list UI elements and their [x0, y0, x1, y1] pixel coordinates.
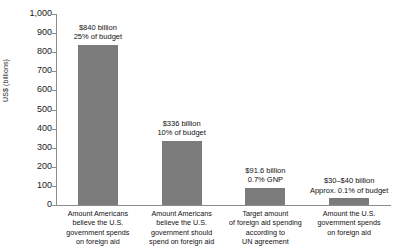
y-axis-tick-mark [52, 129, 56, 130]
y-axis-tick-label: 0 [10, 200, 52, 209]
y-axis-title: US$ (billions) [2, 88, 9, 102]
x-axis-category-labels: Amount Americansbelieve the U.S.governme… [56, 209, 391, 252]
bar [329, 198, 369, 205]
y-axis-tick-label: 500 [10, 105, 52, 114]
x-axis-category-line: UN agreement [213, 237, 317, 246]
bar-chart: US$ (billions) 1,00090080070060050040030… [0, 0, 400, 252]
plot-area: $840 billion25% of budget$336 billion10%… [56, 14, 391, 205]
x-axis-category-line: Amount the U.S. [297, 209, 400, 218]
y-axis-tick-mark [52, 14, 56, 15]
y-axis-tick-mark [52, 167, 56, 168]
bar-value-amount: $30–$40 billion [324, 176, 374, 185]
y-axis-tick-label: 300 [10, 143, 52, 152]
y-axis-tick-mark [52, 90, 56, 91]
bar-value-share: Approx. 0.1% of budget [279, 186, 400, 196]
x-axis-line [56, 205, 391, 206]
y-axis-tick-mark [52, 148, 56, 149]
y-axis-tick-mark [52, 205, 56, 206]
bar-value-amount: $336 billion [163, 119, 201, 128]
bar-value-amount: $840 billion [79, 23, 117, 32]
y-axis-tick-label: 700 [10, 66, 52, 75]
y-axis-tick-mark [52, 33, 56, 34]
x-axis-category-line: on foreign aid [297, 228, 400, 237]
x-axis-category-label: Amount the U.S.government spendson forei… [297, 209, 400, 237]
bar-value-amount: $91.6 billion [245, 166, 285, 175]
bar-group: $30–$40 billionApprox. 0.1% of budget [307, 14, 391, 205]
y-axis-tick-label: 600 [10, 85, 52, 94]
x-axis-category-line: government spends [297, 218, 400, 227]
bar-value-label: $30–$40 billionApprox. 0.1% of budget [279, 176, 400, 195]
y-axis-tick-mark [52, 110, 56, 111]
y-axis-tick-label: 100 [10, 181, 52, 190]
y-axis-tick-label: 200 [10, 162, 52, 171]
bar-group: $840 billion25% of budget [56, 14, 140, 205]
y-axis-tick-label: 1,000 [10, 9, 52, 18]
y-axis-tick-label: 400 [10, 124, 52, 133]
y-axis-tick-mark [52, 71, 56, 72]
y-axis-tick-mark [52, 186, 56, 187]
y-axis-tick-label: 800 [10, 47, 52, 56]
y-axis-tick-mark [52, 52, 56, 53]
